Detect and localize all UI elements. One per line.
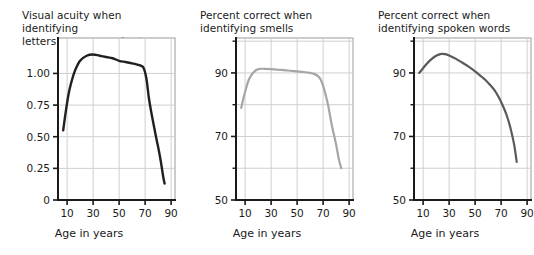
x-tick-label: 70 bbox=[494, 207, 507, 219]
plot-area-visual-acuity: 00.250.500.751.001030507090 bbox=[0, 0, 178, 255]
y-tick-label: 90 bbox=[215, 67, 228, 79]
x-tick-label: 90 bbox=[164, 207, 177, 219]
x-tick-label: 10 bbox=[60, 207, 73, 219]
y-tick-label: 50 bbox=[215, 194, 228, 206]
plot-svg-spoken-words: 5070901030507090 bbox=[356, 0, 534, 255]
y-tick-label: 0.50 bbox=[27, 131, 50, 143]
x-tick-label: 50 bbox=[112, 207, 125, 219]
plot-svg-smells: 5070901030507090 bbox=[178, 0, 356, 255]
x-tick-label: 70 bbox=[316, 207, 329, 219]
x-tick-label: 30 bbox=[86, 207, 99, 219]
y-tick-label: 70 bbox=[215, 130, 228, 142]
y-tick-label: 0 bbox=[43, 194, 50, 206]
x-tick-label: 30 bbox=[442, 207, 455, 219]
x-tick-label: 50 bbox=[468, 207, 481, 219]
plot-area-spoken-words: 5070901030507090 bbox=[356, 0, 534, 255]
x-tick-label: 10 bbox=[238, 207, 251, 219]
y-tick-label: 1.00 bbox=[27, 67, 50, 79]
chart-panel-smells: Percent correct when identifying smells … bbox=[178, 0, 356, 255]
x-tick-label: 30 bbox=[264, 207, 277, 219]
x-axis-label-smells: Age in years bbox=[178, 227, 356, 240]
x-tick-label: 90 bbox=[520, 207, 533, 219]
y-tick-label: 70 bbox=[393, 130, 406, 142]
plot-area-smells: 5070901030507090 bbox=[178, 0, 356, 255]
x-axis-label-visual-acuity: Age in years bbox=[0, 227, 178, 240]
x-tick-label: 10 bbox=[416, 207, 429, 219]
y-tick-label: 90 bbox=[393, 67, 406, 79]
chart-panel-visual-acuity: Visual acuity when identifying letters o… bbox=[0, 0, 178, 255]
x-tick-label: 70 bbox=[138, 207, 151, 219]
x-axis-label-spoken-words: Age in years bbox=[356, 227, 534, 240]
y-tick-label: 0.25 bbox=[27, 162, 50, 174]
x-tick-label: 90 bbox=[342, 207, 355, 219]
chart-panel-spoken-words: Percent correct when identifying spoken … bbox=[356, 0, 534, 255]
y-tick-label: 50 bbox=[393, 194, 406, 206]
plot-svg-visual-acuity: 00.250.500.751.001030507090 bbox=[0, 0, 178, 255]
y-tick-label: 0.75 bbox=[27, 99, 50, 111]
x-tick-label: 50 bbox=[290, 207, 303, 219]
multi-panel-line-chart-figure: Visual acuity when identifying letters o… bbox=[0, 0, 534, 255]
